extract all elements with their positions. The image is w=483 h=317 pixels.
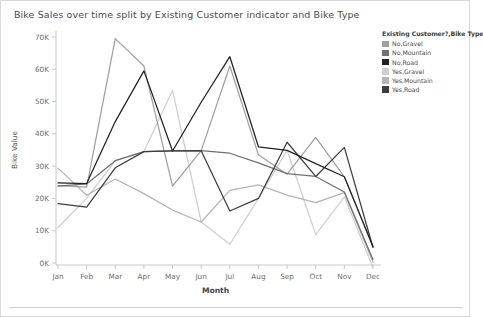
legend-item[interactable]: Yes,Mountain <box>382 76 468 85</box>
x-axis-tick-label: Jan <box>51 272 63 281</box>
x-axis-tick-label: Sep <box>280 272 294 281</box>
y-axis-tick-label: 40K <box>35 129 49 138</box>
x-axis-tick-label: Aug <box>251 272 265 281</box>
legend-color-swatch <box>382 59 389 66</box>
x-axis-tick-label: Nov <box>337 272 352 281</box>
legend-item[interactable]: No,Gravel <box>382 40 468 49</box>
legend-item-label: No,Road <box>392 59 418 66</box>
legend-item-label: Yes,Mountain <box>392 77 433 84</box>
x-axis-tick-label: May <box>165 272 181 281</box>
legend-item-label: No,Gravel <box>392 40 423 47</box>
legend-color-swatch <box>382 50 389 57</box>
x-axis-tick-label: Oct <box>309 272 322 281</box>
x-axis-tick-label: Apr <box>138 272 151 281</box>
legend-item-label: No,Mountain <box>392 49 431 56</box>
legend-color-swatch <box>382 86 389 93</box>
series-line[interactable] <box>58 90 373 268</box>
y-axis-tick-label: 60K <box>35 65 49 74</box>
x-axis-tick-label: Feb <box>80 272 93 281</box>
legend-item[interactable]: Yes,Road <box>382 85 468 94</box>
legend-item-list: No,GravelNo,MountainNo,RoadYes,GravelYes… <box>382 40 468 95</box>
page-title: Bike Sales over time split by Existing C… <box>14 9 360 20</box>
legend-item[interactable]: Yes,Gravel <box>382 67 468 76</box>
legend-color-swatch <box>382 68 389 75</box>
bottom-divider <box>9 307 463 308</box>
x-axis-tick-label: Jun <box>194 272 206 281</box>
legend-color-swatch <box>382 41 389 48</box>
legend-item[interactable]: No,Road <box>382 58 468 67</box>
series-line[interactable] <box>58 142 373 247</box>
legend-color-swatch <box>382 77 389 84</box>
x-axis-tick-label: Jul <box>224 272 234 281</box>
legend-title: Existing Customer?,Bike Type <box>382 30 468 37</box>
legend-item[interactable]: No,Mountain <box>382 49 468 58</box>
y-axis-tick-label: 70K <box>35 33 49 42</box>
x-axis-tick-label: Dec <box>366 272 380 281</box>
x-axis-title: Month <box>202 286 229 295</box>
y-axis-tick-label: 10K <box>35 226 49 235</box>
x-axis-tick-label: Mar <box>108 272 122 281</box>
legend-item-label: Yes,Road <box>392 86 419 93</box>
legend: Existing Customer?,Bike Type No,GravelNo… <box>382 30 468 95</box>
legend-item-label: Yes,Gravel <box>392 68 424 75</box>
y-axis-tick-label: 30K <box>35 162 49 171</box>
y-axis-tick-label: 20K <box>35 194 49 203</box>
y-axis-tick-label: 0K <box>40 259 50 268</box>
y-axis-title: Bike Value <box>10 131 19 169</box>
y-axis-tick-label: 50K <box>35 97 49 106</box>
